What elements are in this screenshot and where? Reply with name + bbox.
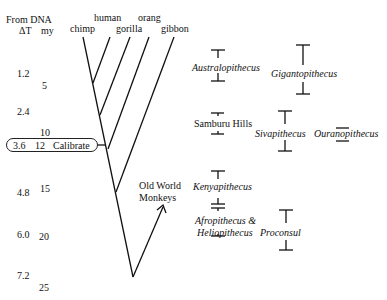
range-gigantopithecus — [296, 45, 310, 94]
range-australopithecus — [211, 50, 225, 81]
range-kenyapithecus — [211, 171, 225, 179]
range-proconsul — [279, 210, 293, 250]
range-ouranopithecus — [336, 128, 349, 141]
tree-diagram — [0, 0, 387, 300]
range-samburu — [211, 113, 224, 134]
range-sivapithecus — [278, 111, 292, 151]
range-afropithecus — [211, 198, 225, 236]
